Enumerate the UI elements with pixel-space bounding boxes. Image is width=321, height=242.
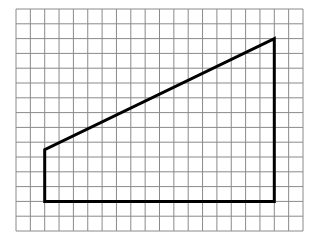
grid-diagram bbox=[0, 0, 321, 242]
grid-lines bbox=[16, 9, 303, 231]
